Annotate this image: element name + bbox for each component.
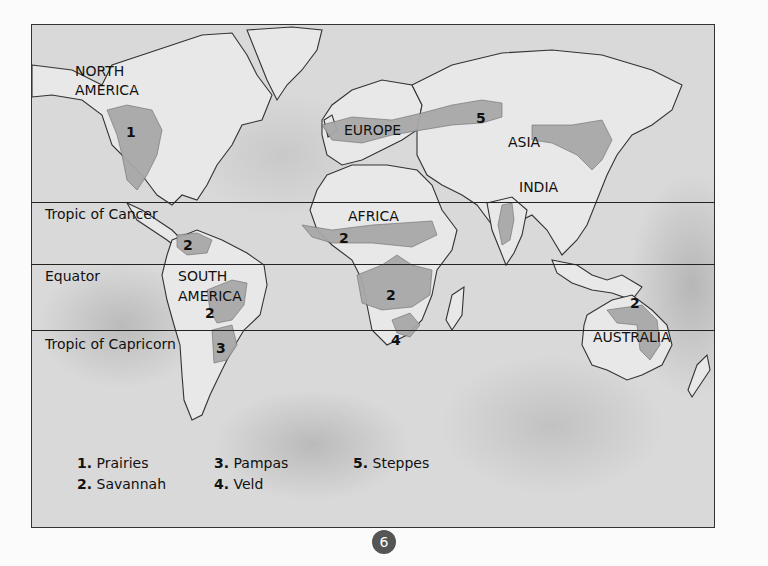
- legend-item-prairies: 1. Prairies: [77, 455, 149, 471]
- legend-num: 1.: [77, 455, 92, 471]
- legend-item-savannah: 2. Savannah: [77, 476, 166, 492]
- label-north-america-line2: AMERICA: [75, 82, 139, 98]
- landmass-madagascar: [446, 287, 464, 330]
- marker-savannah-brazil: 2: [205, 305, 215, 321]
- landmass-se-asia-islands: [552, 260, 642, 300]
- label-africa: AFRICA: [348, 208, 399, 224]
- marker-prairies: 1: [126, 124, 136, 140]
- world-map-frame: [31, 24, 715, 528]
- marker-savannah-venezuela: 2: [183, 237, 193, 253]
- legend-num: 2.: [77, 476, 92, 492]
- tropic-of-capricorn-label: Tropic of Capricorn: [45, 336, 176, 352]
- legend-num: 5.: [353, 455, 368, 471]
- legend-label: Savannah: [97, 476, 167, 492]
- legend-label: Pampas: [234, 455, 289, 471]
- marker-steppes: 5: [476, 110, 486, 126]
- label-south-america-line2: AMERICA: [178, 288, 242, 304]
- label-europe: EUROPE: [344, 122, 401, 138]
- landmass-africa: [310, 165, 457, 345]
- tropic-of-cancer-line: [31, 202, 715, 203]
- label-asia: ASIA: [508, 134, 540, 150]
- label-south-america-line1: SOUTH: [178, 268, 227, 284]
- marker-pampas: 3: [216, 340, 226, 356]
- page-number-badge: 6: [372, 530, 396, 554]
- marker-savannah-west-africa: 2: [339, 230, 349, 246]
- legend-label: Prairies: [97, 455, 149, 471]
- legend-label: Veld: [234, 476, 264, 492]
- equator-label: Equator: [45, 268, 100, 284]
- world-map-landmasses: [32, 25, 715, 528]
- landmass-new-zealand: [688, 355, 710, 397]
- legend-item-pampas: 3. Pampas: [214, 455, 288, 471]
- marker-savannah-australia: 2: [630, 295, 640, 311]
- equator-line: [31, 264, 715, 265]
- label-india: INDIA: [519, 179, 558, 195]
- legend-num: 4.: [214, 476, 229, 492]
- landmass-south-america: [162, 230, 267, 420]
- tropic-of-cancer-label: Tropic of Cancer: [45, 206, 158, 222]
- label-australia: AUSTRALIA: [593, 329, 671, 345]
- legend-label: Steppes: [373, 455, 430, 471]
- legend-item-steppes: 5. Steppes: [353, 455, 429, 471]
- legend-item-veld: 4. Veld: [214, 476, 263, 492]
- label-north-america-line1: NORTH: [75, 63, 124, 79]
- marker-veld: 4: [391, 332, 401, 348]
- legend-num: 3.: [214, 455, 229, 471]
- marker-savannah-central-africa: 2: [386, 287, 396, 303]
